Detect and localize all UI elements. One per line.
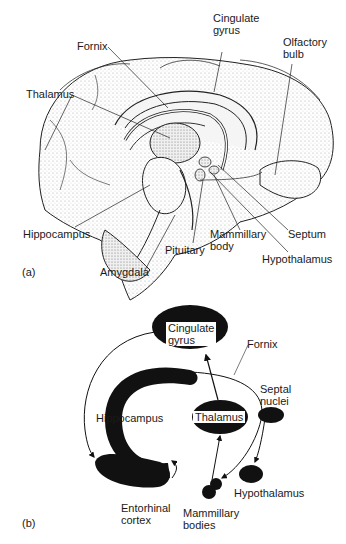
label-b-thalamus: Thalamus [193,411,245,423]
label-b-fornix: Fornix [247,338,278,350]
label-septum: Septum [288,228,326,240]
label-fornix: Fornix [77,40,108,52]
label-pituitary: Pituitary [165,244,205,256]
label-olfactory-bulb: Olfactory bulb [283,36,327,60]
label-b-mammillary-bodies: Mammillary bodies [183,507,239,531]
label-amygdala: Amygdala [100,266,149,278]
label-b-septal-nuclei: Septal nuclei [260,383,291,407]
panel-b-tag: (b) [22,517,35,529]
label-b-entorhinal-cortex: Entorhinal cortex [121,502,171,526]
label-mammillary-body: Mammillary body [210,228,266,252]
brain-illustration [0,0,346,544]
label-hippocampus: Hippocampus [23,228,90,240]
label-b-cingulate-gyrus: Cingulate gyrus [166,322,216,346]
label-b-hypothalamus: Hypothalamus [234,487,304,499]
label-hypothalamus: Hypothalamus [262,253,332,265]
label-thalamus: Thalamus [26,88,74,100]
panel-a-tag: (a) [22,266,35,278]
label-b-hippocampus: Hippocampus [96,412,163,424]
label-cingulate-gyrus: Cingulate gyrus [213,12,259,36]
